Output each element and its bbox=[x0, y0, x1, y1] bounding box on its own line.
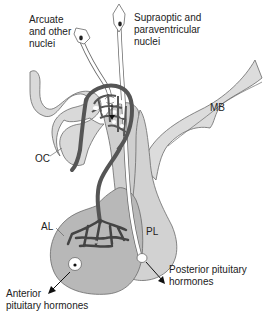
arcuate-label: Arcuate and other nuclei bbox=[29, 14, 71, 50]
supraoptic-nucleus-dot bbox=[118, 22, 122, 27]
oc-label: OC bbox=[35, 153, 50, 165]
anterior-label-line1: Anterior bbox=[6, 288, 88, 300]
arcuate-label-line3: nuclei bbox=[29, 38, 71, 50]
posterior-label-line2: hormones bbox=[169, 276, 247, 288]
arcuate-label-line1: Arcuate bbox=[29, 14, 71, 26]
supraoptic-label: Supraoptic and paraventricular nuclei bbox=[134, 12, 201, 48]
posterior-hormones-label: Posterior pituitary hormones bbox=[169, 264, 247, 288]
supraoptic-label-line1: Supraoptic and bbox=[134, 12, 201, 24]
arcuate-nucleus-dot bbox=[79, 36, 83, 41]
anterior-cell-nucleus bbox=[73, 263, 76, 266]
supraoptic-neuron bbox=[113, 4, 125, 32]
al-label: AL bbox=[41, 221, 53, 233]
anterior-label-line2: pituitary hormones bbox=[6, 300, 88, 312]
arcuate-label-line2: and other bbox=[29, 26, 71, 38]
optic-chiasm bbox=[30, 71, 104, 166]
posterior-label-line1: Posterior pituitary bbox=[169, 264, 247, 276]
supraoptic-label-line2: paraventricular bbox=[134, 24, 201, 36]
arcuate-neuron bbox=[74, 28, 90, 44]
supraoptic-label-line3: nuclei bbox=[134, 36, 201, 48]
pl-label: PL bbox=[146, 226, 158, 238]
posterior-axon-terminal bbox=[137, 254, 147, 263]
anterior-hormones-label: Anterior pituitary hormones bbox=[6, 288, 88, 312]
mb-label: MB bbox=[210, 102, 225, 114]
